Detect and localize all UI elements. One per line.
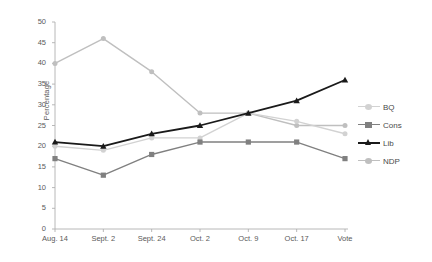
- data-point: [149, 152, 154, 157]
- data-point: [342, 77, 348, 83]
- legend-swatch-ndp: [358, 156, 380, 166]
- line-chart: Percentage 50454035302520151050 Aug. 14S…: [0, 0, 432, 262]
- data-point: [52, 156, 57, 161]
- legend-swatch-cons: [358, 120, 380, 130]
- data-point: [294, 139, 299, 144]
- legend-item-ndp[interactable]: NDP: [358, 152, 402, 170]
- legend-marker-square: [365, 122, 372, 128]
- data-point: [342, 156, 347, 161]
- data-point: [53, 61, 58, 66]
- data-point: [197, 139, 202, 144]
- data-point: [198, 111, 203, 116]
- data-point: [246, 139, 251, 144]
- data-point: [101, 173, 106, 178]
- legend-item-cons[interactable]: Cons: [358, 116, 402, 134]
- data-point: [101, 36, 106, 41]
- legend-swatch-lib: [358, 138, 380, 148]
- legend-marker-triangle: [365, 139, 371, 145]
- legend-label: NDP: [383, 157, 400, 166]
- legend-label: Lib: [383, 139, 394, 148]
- series-line: [55, 142, 345, 175]
- legend-marker-circle: [365, 104, 372, 110]
- data-point: [149, 69, 154, 74]
- data-point: [294, 119, 299, 124]
- legend-item-bq[interactable]: BQ: [358, 98, 402, 116]
- legend-swatch-bq: [358, 102, 380, 112]
- data-point: [343, 131, 348, 136]
- legend-marker-circle: [365, 158, 372, 164]
- legend-label: Cons: [383, 121, 402, 130]
- series-line: [55, 113, 345, 150]
- chart-legend: BQConsLibNDP: [358, 98, 402, 170]
- data-point: [343, 123, 348, 128]
- legend-label: BQ: [383, 103, 395, 112]
- series-ndp: [53, 36, 348, 128]
- legend-item-lib[interactable]: Lib: [358, 134, 402, 152]
